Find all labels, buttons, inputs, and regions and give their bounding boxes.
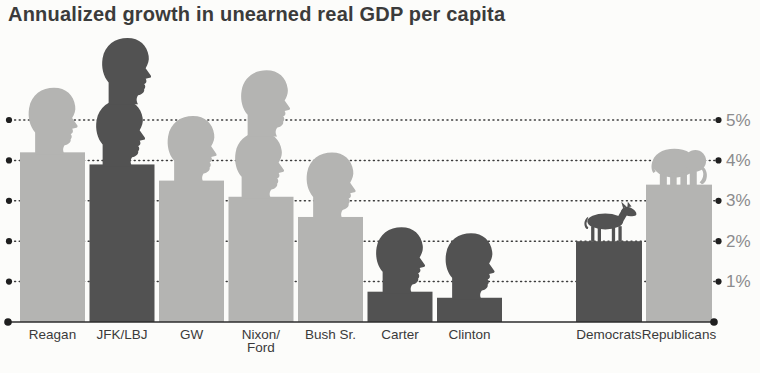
gridline-left-dot [6, 157, 12, 163]
head-silhouette-nixon-ford-lower [235, 132, 284, 198]
y-tick-dot [715, 117, 721, 123]
donkey-icon [584, 202, 636, 242]
gridline-left-dot [6, 117, 12, 123]
bars-layer [20, 152, 712, 322]
bar-reagan [20, 152, 85, 322]
y-tick-label: 3% [726, 191, 751, 210]
gridline-left-dot [6, 279, 12, 285]
x-axis-label-jfk-lbj: JFK/LBJ [96, 327, 147, 342]
head-silhouette-reagan [29, 88, 78, 154]
bar-jfk-lbj [90, 164, 155, 322]
y-tick-label: 4% [726, 151, 751, 170]
gridline-left-dot [6, 238, 12, 244]
bar-nixon-ford [229, 197, 294, 322]
bar-carter [368, 292, 433, 322]
x-axis-label-reagan: Reagan [29, 327, 76, 342]
head-silhouette-jfk-lbj-lower [96, 100, 145, 166]
y-tick-dot [715, 157, 721, 163]
y-tick-dot [715, 279, 721, 285]
head-silhouette-jfk-lbj-upper [102, 38, 151, 104]
x-axis-label-clinton: Clinton [448, 327, 490, 342]
x-axis-label-democrats: Democrats [576, 327, 642, 342]
x-axis-label-bush-sr: Bush Sr. [305, 327, 356, 342]
bar-democrats [576, 241, 642, 322]
y-tick-dot [715, 198, 721, 204]
chart-canvas: Annualized growth in unearned real GDP p… [0, 0, 760, 373]
x-axis-label-carter: Carter [381, 327, 419, 342]
x-axis-label-republicans: Republicans [642, 327, 717, 342]
head-silhouette-bush-sr [307, 152, 356, 218]
bar-bush-sr [298, 217, 363, 322]
x-axis-right-dot [710, 318, 718, 326]
head-silhouette-carter [376, 227, 425, 293]
x-axis-label-nixon-ford: Ford [247, 340, 275, 355]
bar-clinton [437, 298, 502, 322]
bar-gw [159, 181, 224, 322]
y-tick-label: 2% [726, 232, 751, 251]
labels-layer: ReaganJFK/LBJGWNixon/FordBush Sr.CarterC… [29, 327, 717, 355]
x-axis-left-dot [4, 318, 12, 326]
y-tick-label: 5% [726, 111, 751, 130]
head-silhouette-nixon-ford-upper [241, 70, 290, 136]
head-silhouette-clinton [446, 233, 495, 299]
gridline-left-dot [6, 198, 12, 204]
bar-republicans [646, 185, 712, 322]
elephant-icon [652, 149, 707, 185]
y-tick-label: 1% [726, 272, 751, 291]
head-silhouette-gw [168, 116, 217, 182]
y-tick-dot [715, 238, 721, 244]
x-axis-label-gw: GW [180, 327, 204, 342]
bar-chart: 1%2%3%4%5% ReaganJFK/LBJGWNixon/FordBush… [0, 0, 760, 373]
